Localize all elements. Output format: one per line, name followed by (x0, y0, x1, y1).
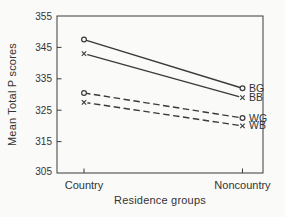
y-tick-label: 345 (35, 42, 52, 53)
figure: 355 345 335 325 315 305 Country Noncount… (0, 0, 285, 217)
y-tick-label: 305 (35, 166, 52, 177)
y-axis-title: Mean Total P scores (6, 43, 18, 146)
series-line-BG (84, 40, 243, 89)
chart-svg: 355 345 335 325 315 305 Country Noncount… (0, 0, 285, 217)
y-tick-label: 315 (35, 136, 52, 147)
x-axis-title: Residence groups (114, 194, 206, 206)
series-layer: BGBBWGWB (81, 37, 267, 131)
series-line-BB (84, 54, 243, 98)
y-tick-label: 325 (35, 105, 52, 116)
y-tick-label: 355 (35, 11, 52, 22)
series-label-BB: BB (249, 91, 263, 103)
circle-marker (240, 86, 245, 91)
circle-marker (240, 116, 245, 121)
series-label-WB: WB (249, 119, 266, 131)
circle-marker (82, 91, 87, 96)
x-category-label-noncountry: Noncountry (214, 179, 271, 191)
y-tick-label: 335 (35, 73, 52, 84)
circle-marker (82, 37, 87, 42)
x-category-label-country: Country (65, 179, 104, 191)
